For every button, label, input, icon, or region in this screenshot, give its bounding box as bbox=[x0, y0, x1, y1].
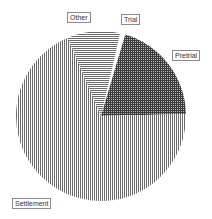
slice-label-settlement: Settlement bbox=[12, 198, 51, 209]
pie-slices bbox=[16, 31, 186, 201]
slice-label-pretrial: Pretrial bbox=[172, 50, 200, 61]
slice-label-trial: Trial bbox=[121, 14, 140, 25]
pie-chart bbox=[0, 0, 212, 219]
slice-label-other: Other bbox=[67, 12, 91, 23]
